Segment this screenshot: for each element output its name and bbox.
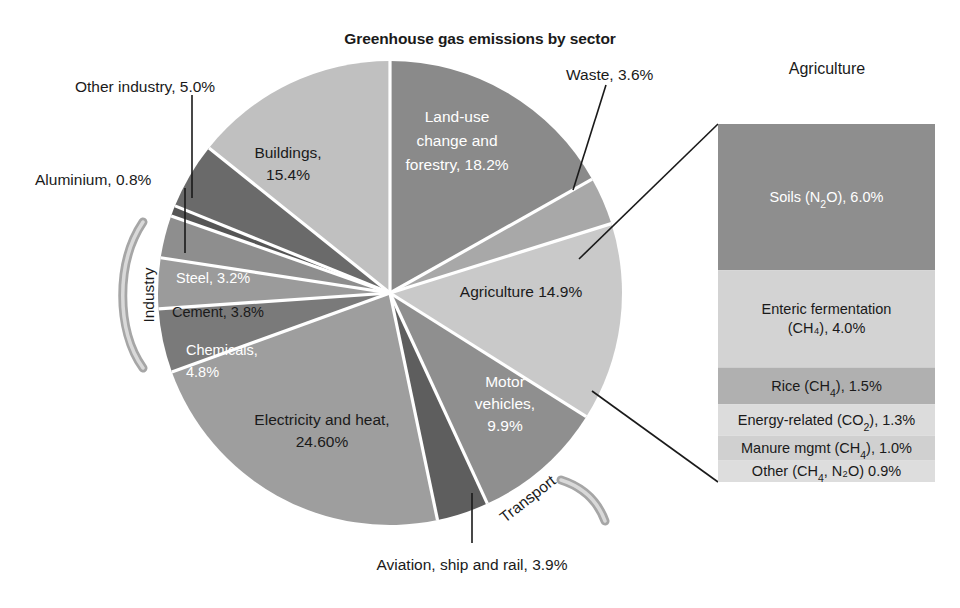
slice-label-motor-line3: 9.9% [487,417,523,434]
breakout-segment-label: (CH₄), 4.0% [788,320,866,336]
leader-waste [573,85,606,190]
slice-label-buildings-line2: 15.4% [266,166,310,183]
slice-label-chemicals-line1: Chemicals, [186,342,258,358]
slice-label-electricity-line1: Electricity and heat, [254,411,389,428]
transport-bracket-arc [561,480,605,521]
slice-label-landuse-line1: Land-use [425,108,490,125]
slice-label-steel: Steel, 3.2% [176,270,250,286]
slice-label-buildings-line1: Buildings, [254,144,321,161]
industry-bracket: Industry [123,222,157,368]
connector-bottom [592,391,718,482]
slice-label-motor-line1: Motor [485,373,525,390]
connector-top [579,124,718,259]
callout-aluminium: Aluminium, 0.8% [35,171,152,188]
slice-label-landuse-line2: change and [416,132,497,149]
slice-label-motor-line2: vehicles, [475,395,535,412]
callout-aviation: Aviation, ship and rail, 3.9% [377,556,568,573]
breakout-stacked-bar: Soils (N2O), 6.0%Enteric fermentation(CH… [718,124,935,484]
callout-waste: Waste, 3.6% [566,66,654,83]
breakout-panel-title: Agriculture [789,60,866,77]
breakout-segment[interactable] [718,270,935,367]
callout-other-industry: Other industry, 5.0% [75,78,215,95]
breakout-segment-label: Enteric fermentation [762,301,892,317]
industry-bracket-label: Industry [140,267,157,322]
slice-label-cement: Cement, 3.8% [172,304,264,320]
greenhouse-gas-figure: Greenhouse gas emissions by sector Agric… [0,0,960,608]
figure-root: Greenhouse gas emissions by sector Agric… [0,0,960,608]
slice-label-agriculture: Agriculture 14.9% [460,283,583,300]
slice-label-electricity-line2: 24.60% [296,433,349,450]
page-title: Greenhouse gas emissions by sector [344,30,615,47]
slice-label-landuse-line3: forestry, 18.2% [405,156,508,173]
slice-label-chemicals-line2: 4.8% [186,364,219,380]
